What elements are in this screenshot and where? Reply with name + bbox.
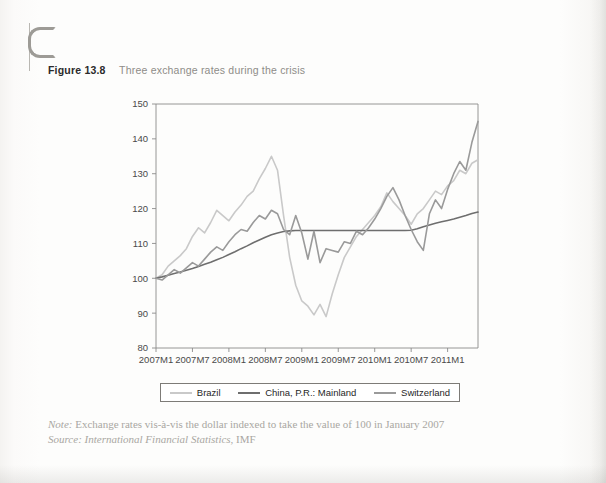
page-shadow-right (590, 0, 606, 483)
y-axis-tick-label: 130 (132, 168, 148, 179)
plot-frame (156, 104, 478, 348)
note-key: Note: (48, 418, 72, 430)
chart-legend: Brazil China, P.R.: Mainland Switzerland (160, 383, 460, 402)
y-axis-tick-label: 80 (137, 342, 148, 353)
legend-label-switzerland: Switzerland (401, 387, 450, 398)
source-tail: , IMF (231, 433, 256, 445)
line-chart: 80901001101201301401502007M12007M72008M1… (118, 96, 483, 381)
source-title: International Financial Statistics (82, 433, 231, 445)
x-axis-tick-label: 2011M1 (431, 354, 465, 365)
source-key: Source: (48, 433, 82, 445)
c-page-edge-mark-icon (28, 27, 56, 58)
legend-item-brazil: Brazil (170, 387, 221, 398)
page-shadow-bottom (0, 465, 606, 483)
x-axis-tick-label: 2010M1 (358, 354, 392, 365)
source-line: Source: International Financial Statisti… (48, 432, 478, 447)
x-axis-tick-label: 2010M7 (394, 354, 428, 365)
x-axis-tick-label: 2008M7 (248, 354, 282, 365)
note-line: Note: Exchange rates vis-à-vis the dolla… (48, 417, 478, 432)
legend-label-brazil: Brazil (197, 387, 221, 398)
y-axis-tick-label: 120 (132, 203, 148, 214)
legend-item-china: China, P.R.: Mainland (238, 387, 356, 398)
x-axis-tick-label: 2009M1 (285, 354, 319, 365)
legend-swatch-brazil (170, 392, 192, 394)
x-axis-tick-label: 2007M1 (139, 354, 173, 365)
figure-title: Three exchange rates during the crisis (119, 64, 305, 76)
x-axis-tick-label: 2008M1 (212, 354, 246, 365)
chart-area: 80901001101201301401502007M12007M72008M1… (118, 96, 483, 381)
legend-label-china: China, P.R.: Mainland (265, 387, 356, 398)
y-axis-tick-label: 100 (132, 273, 148, 284)
scanned-page: Figure 13.8 Three exchange rates during … (0, 0, 606, 483)
y-axis-tick-label: 90 (137, 308, 148, 319)
legend-item-switzerland: Switzerland (374, 387, 450, 398)
y-axis-tick-label: 110 (133, 238, 148, 249)
y-axis-tick-label: 140 (132, 133, 148, 144)
legend-swatch-switzerland (374, 392, 396, 394)
figure-label: Figure 13.8 (48, 64, 106, 76)
note-text: Exchange rates vis-à-vis the dollar inde… (72, 418, 444, 430)
x-axis-tick-label: 2009M7 (321, 354, 355, 365)
y-axis-tick-label: 150 (132, 98, 148, 109)
figure-heading: Figure 13.8 Three exchange rates during … (48, 60, 305, 78)
legend-swatch-china (238, 392, 260, 394)
figure-notes: Note: Exchange rates vis-à-vis the dolla… (48, 417, 478, 447)
x-axis-tick-label: 2007M7 (175, 354, 209, 365)
series-line-brazil (156, 156, 478, 316)
